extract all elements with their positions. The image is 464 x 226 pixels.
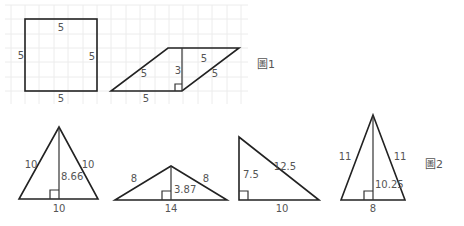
parallelogram-height-label: 3: [175, 65, 181, 76]
square-bottom-label: 5: [58, 93, 64, 104]
parallelogram-top-label: 5: [201, 53, 207, 64]
right-angle-marker: [50, 190, 59, 199]
triangle-1-left-label: 10: [25, 159, 38, 170]
triangle-2-height-label: 3.87: [174, 184, 196, 195]
triangle-2-left-label: 8: [131, 173, 137, 184]
parallelogram-right-side-label: 5: [212, 68, 218, 79]
triangle-obtuse: 8 8 3.87 14: [115, 166, 227, 214]
triangle-equilateral: 10 10 8.66 10: [19, 127, 98, 214]
parallelogram-left-side-label: 5: [141, 68, 147, 79]
triangle-3-vertical-label: 7.5: [243, 169, 259, 180]
triangle-1-right-label: 10: [82, 159, 95, 170]
right-angle-marker: [162, 191, 171, 200]
triangle-4-right-label: 11: [394, 151, 407, 162]
square-left-label: 5: [18, 50, 24, 61]
figure1-caption: 圖1: [257, 58, 275, 71]
parallelogram-base-label: 5: [143, 93, 149, 104]
right-angle-marker: [364, 191, 373, 200]
triangle-4-height-label: 10.25: [375, 179, 404, 190]
triangle-2-right-label: 8: [203, 173, 209, 184]
square-top-label: 5: [58, 22, 64, 33]
square-right-label: 5: [89, 51, 95, 62]
parallelogram: 5 5 5 5 3: [111, 48, 239, 104]
triangle-tall: 11 11 10.25 8: [339, 115, 407, 214]
triangle-1-base-label: 10: [53, 203, 66, 214]
diagram-canvas: 5 5 5 5 5 5 5 5 3 圖1 10 10 8.66 10 8 8 3…: [0, 0, 464, 226]
right-angle-marker: [175, 84, 182, 91]
triangle-4-base-label: 8: [370, 203, 376, 214]
triangle-3-base-label: 10: [276, 203, 289, 214]
triangle-1-height-label: 8.66: [61, 171, 83, 182]
triangle-2-base-label: 14: [165, 203, 178, 214]
right-angle-marker: [239, 191, 248, 200]
triangle-right: 7.5 12.5 10: [239, 137, 319, 214]
background-grid: [5, 5, 248, 104]
triangle-3-hypotenuse-label: 12.5: [274, 161, 296, 172]
triangle-4-left-label: 11: [339, 151, 352, 162]
figure2-caption: 圖2: [425, 158, 443, 171]
